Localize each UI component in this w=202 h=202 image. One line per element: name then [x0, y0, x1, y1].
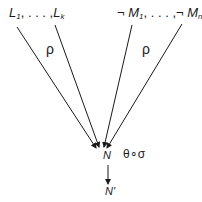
down-edge-label: θ∘σ	[123, 148, 145, 160]
edge-m1-to-n	[104, 25, 132, 147]
edge-lk-to-n	[55, 25, 99, 147]
diagram-edges	[0, 0, 202, 202]
center-node-n: N	[103, 150, 111, 161]
top-left-literals: L1, . . . ,Lk	[9, 6, 64, 21]
top-right-literals: ¬ M1, . . . ,¬ Mn	[117, 6, 202, 21]
edge-l1-to-n	[17, 27, 96, 148]
resolution-diagram: L1, . . . ,Lk ¬ M1, . . . ,¬ Mn ρ ρ N θ∘…	[0, 0, 202, 202]
bottom-node-nprime: N'	[105, 186, 115, 197]
right-edge-label: ρ	[142, 42, 150, 56]
left-edge-label: ρ	[46, 42, 54, 56]
